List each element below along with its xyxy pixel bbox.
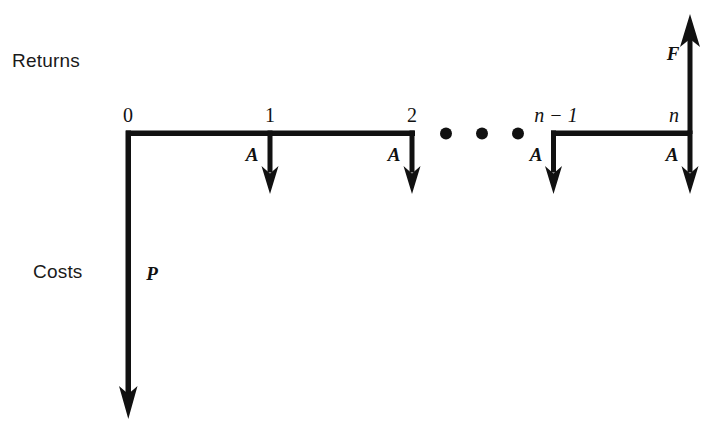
a2-arrow-shaft (410, 131, 415, 173)
cash-flow-diagram: 0 1 2 n − 1 n P F A A A A Returns Costs (0, 0, 728, 443)
p-arrow-shaft (126, 131, 132, 404)
ellipsis-dot-3 (512, 128, 524, 140)
flow-label-f: F (666, 43, 680, 64)
axis-label-returns: Returns (12, 50, 80, 71)
timeline-segment-right (551, 131, 692, 137)
flow-label-a-period-1: A (245, 144, 259, 165)
ellipsis-dot-1 (440, 128, 452, 140)
flow-label-p: P (145, 263, 158, 284)
cash-flow-canvas: 0 1 2 n − 1 n P F A A A A Returns Costs (0, 0, 728, 443)
period-label-0: 0 (123, 104, 133, 126)
f-arrow-shaft (688, 30, 693, 134)
cash-flow-arrow-a-period-1 (262, 131, 279, 195)
period-label-n-minus-1: n − 1 (534, 104, 578, 126)
cash-flow-arrow-a-period-2 (404, 131, 421, 195)
axis-label-costs: Costs (33, 261, 83, 282)
flow-label-a-period-2: A (387, 144, 401, 165)
ellipsis-dot-2 (476, 128, 488, 140)
period-label-1: 1 (265, 104, 275, 126)
cash-flow-arrow-f (680, 14, 700, 134)
flow-label-a-period-n: A (665, 144, 679, 165)
period-label-2: 2 (407, 104, 417, 126)
an1-arrow-shaft (551, 131, 556, 173)
a1-arrow-shaft (268, 131, 273, 173)
flow-label-a-period-n-minus-1: A (529, 144, 543, 165)
cash-flow-arrow-p (119, 131, 138, 420)
cash-flow-arrow-a-period-n (682, 131, 699, 195)
period-label-n: n (669, 104, 679, 126)
an-arrow-shaft (688, 131, 693, 173)
cash-flow-arrow-a-period-n-minus-1 (545, 131, 562, 195)
